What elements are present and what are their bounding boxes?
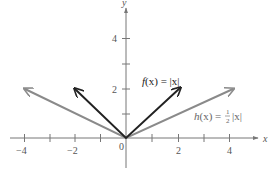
h-function-label: h(x) = 1 2 |x| [194,108,242,125]
x-tick-label: −4 [16,145,27,156]
graph: −4 −2 0 2 4 2 4 x y f(x) = |x| h(x) = 1 … [0,0,272,177]
x-tick-label: −2 [67,145,78,156]
origin-label: 0 [119,141,124,152]
svg-text:h(x) =: h(x) = [194,110,221,123]
y-tick-label: 4 [112,33,117,44]
h-abs-x: |x| [232,110,242,122]
y-tick-label: 2 [112,84,117,95]
h-fraction-denominator: 2 [226,117,230,125]
f-function-label: f(x) = |x| [142,75,180,88]
y-axis-label: y [121,0,127,8]
x-tick-label: 2 [176,145,181,156]
f-function-curve [75,88,180,138]
h-fraction-numerator: 1 [226,108,230,116]
x-axis-label: x [262,133,268,144]
x-tick-label: 4 [227,145,232,156]
